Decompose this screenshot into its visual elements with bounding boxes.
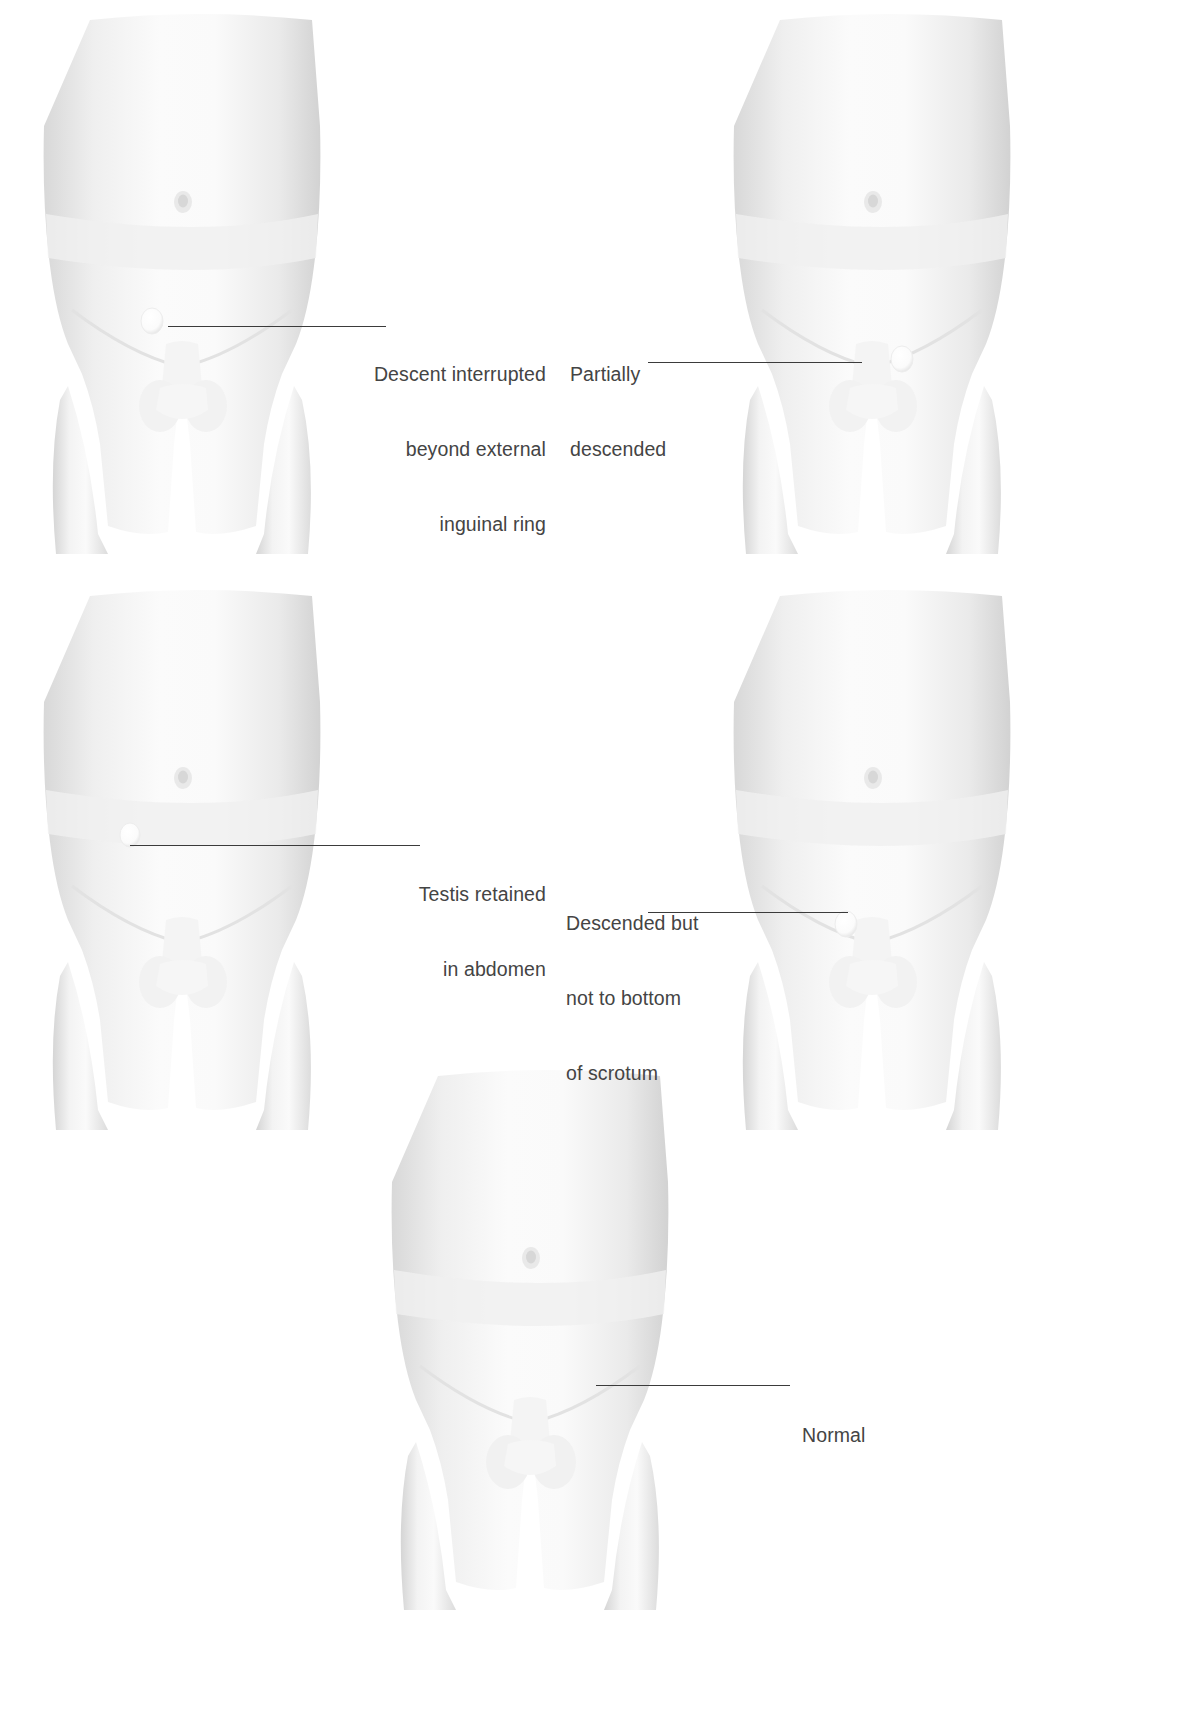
label-line: Descent interrupted [160,362,546,387]
label-line: beyond external [160,437,546,462]
label-line: in abdomen [190,957,546,982]
label-testis-retained-in-abdomen: Testis retained in abdomen [190,832,546,1032]
label-line: Descended but [566,911,786,936]
label-line: Partially [570,362,750,387]
label-line: Testis retained [190,882,546,907]
figure-partially-descended [710,14,1070,559]
label-line: descended [570,437,750,462]
label-line: not to bottom [566,986,786,1011]
figure-normal [368,1070,728,1615]
label-line: of scrotum [566,1061,786,1086]
label-normal: Normal [802,1373,962,1498]
illustration-page: Descent interrupted beyond external ingu… [0,0,1189,1710]
label-line: inguinal ring [160,512,546,537]
label-partially-descended: Partially descended [570,312,750,512]
label-descended-but-not-to-bottom-of-scrotum: Descended but not to bottom of scrotum [566,861,786,1136]
label-line: Normal [802,1423,962,1448]
leader-line-normal [596,1385,790,1386]
label-descent-interrupted: Descent interrupted beyond external ingu… [160,312,546,587]
